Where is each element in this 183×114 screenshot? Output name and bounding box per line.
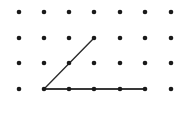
grid-dot — [92, 61, 97, 66]
grid-dot — [143, 36, 148, 41]
grid-dot — [143, 10, 148, 15]
grid-dot — [169, 36, 174, 41]
grid-dot — [67, 61, 72, 66]
grid-dot — [92, 36, 97, 41]
grid-dot — [42, 61, 47, 66]
grid-dot — [92, 87, 97, 92]
grid-dot — [169, 61, 174, 66]
geoboard-figure — [0, 0, 183, 114]
grid-dot — [17, 36, 22, 41]
geoboard-canvas — [0, 0, 183, 114]
grid-dot — [42, 36, 47, 41]
grid-dot — [143, 87, 148, 92]
grid-dot — [17, 10, 22, 15]
grid-dot — [42, 87, 47, 92]
grid-dot — [17, 87, 22, 92]
grid-dot — [169, 10, 174, 15]
grid-dot — [118, 36, 123, 41]
figure-background — [0, 0, 183, 114]
grid-dot — [143, 61, 148, 66]
grid-dot — [17, 61, 22, 66]
grid-dot — [118, 87, 123, 92]
grid-dot — [67, 10, 72, 15]
grid-dot — [67, 87, 72, 92]
grid-dot — [67, 36, 72, 41]
grid-dot — [42, 10, 47, 15]
grid-dot — [118, 61, 123, 66]
grid-dot — [118, 10, 123, 15]
grid-dot — [92, 10, 97, 15]
grid-dot — [169, 87, 174, 92]
